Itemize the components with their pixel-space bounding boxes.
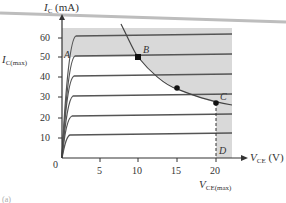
x-axis-title-unit: (V)	[266, 151, 284, 163]
point-a-label: A	[64, 50, 70, 60]
vcemax-label: VCE(max)	[199, 179, 231, 192]
y-axis-title: IC (mA)	[44, 2, 79, 15]
vcemax-sub: CE(max)	[206, 184, 232, 192]
figure-tag: (a)	[2, 196, 11, 203]
x-tick-15: 15	[171, 166, 181, 176]
y-tick-50: 50	[40, 52, 50, 62]
point-b-label: B	[143, 45, 149, 55]
x-axis-title-sub: CE	[257, 157, 266, 165]
y-tick-20: 20	[40, 113, 50, 123]
x-ticks	[100, 158, 216, 162]
y-tick-40: 40	[40, 72, 50, 82]
point-mid-marker	[174, 85, 180, 91]
x-tick-20: 20	[210, 166, 220, 176]
x-axis-title-main: V	[250, 151, 257, 163]
x-tick-5: 5	[97, 166, 102, 176]
ib-curve-3	[62, 94, 232, 158]
point-c-label: C	[220, 92, 227, 102]
ib-curve-1	[62, 133, 232, 158]
x-axis-arrow	[241, 155, 248, 161]
y-tick-30: 30	[40, 92, 50, 102]
top-rule	[0, 13, 286, 22]
ib-curve-2	[62, 114, 232, 158]
point-d-label: D	[219, 146, 226, 156]
icmax-label: IC(max)	[2, 54, 27, 67]
point-b-marker	[135, 54, 141, 60]
y-tick-60: 60	[40, 33, 50, 43]
y-tick-10: 10	[40, 133, 50, 143]
x-tick-10: 10	[132, 166, 142, 176]
icmax-sub: C(max)	[6, 59, 27, 67]
point-c-marker	[213, 100, 219, 106]
y-axis-title-unit: (mA)	[52, 1, 79, 13]
vcemax-main: V	[199, 178, 206, 190]
x-axis-title: VCE (V)	[250, 152, 284, 165]
x-tick-0: 0	[53, 160, 58, 170]
